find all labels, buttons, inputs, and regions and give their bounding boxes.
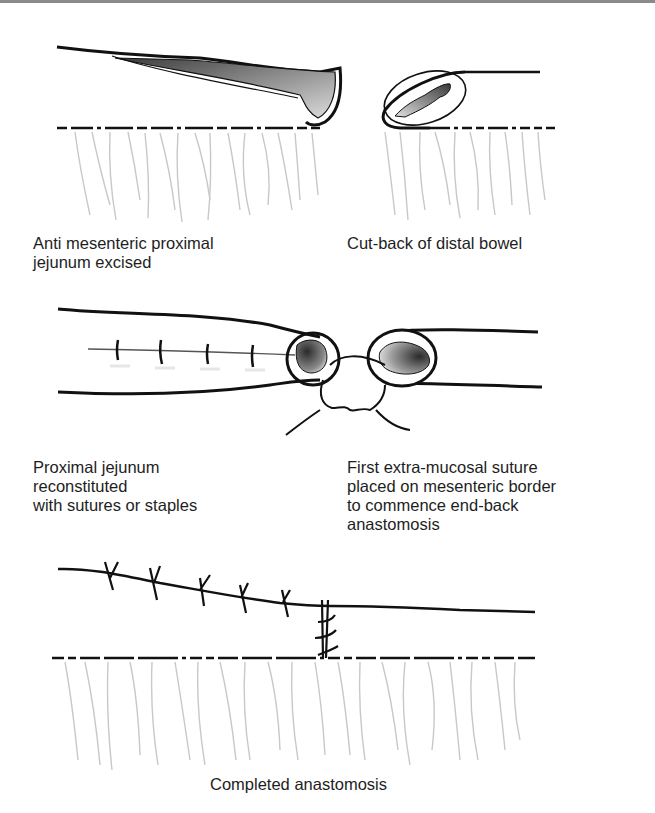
completed-anastomosis (52, 562, 535, 770)
mesentery-shading (75, 132, 318, 222)
anastomosis-sutures (105, 562, 338, 658)
caption-first-suture: First extra-mucosal suture placed on mes… (347, 458, 556, 534)
caption-cutback-distal-bowel: Cut-back of distal bowel (347, 234, 522, 253)
caption-proximal-reconstituted: Proximal jejunum reconstituted with sutu… (33, 458, 197, 515)
caption-completed-anastomosis: Completed anastomosis (210, 775, 387, 794)
excised-proximal-jejunum (57, 47, 341, 222)
caption-excised-proximal-jejunum: Anti mesenteric proximal jejunum excised (33, 234, 214, 272)
surgical-diagram (0, 0, 655, 813)
distal-bowel-cutback (377, 61, 555, 220)
suture-marks (117, 340, 253, 367)
reconstituted-jejunum (58, 309, 339, 394)
